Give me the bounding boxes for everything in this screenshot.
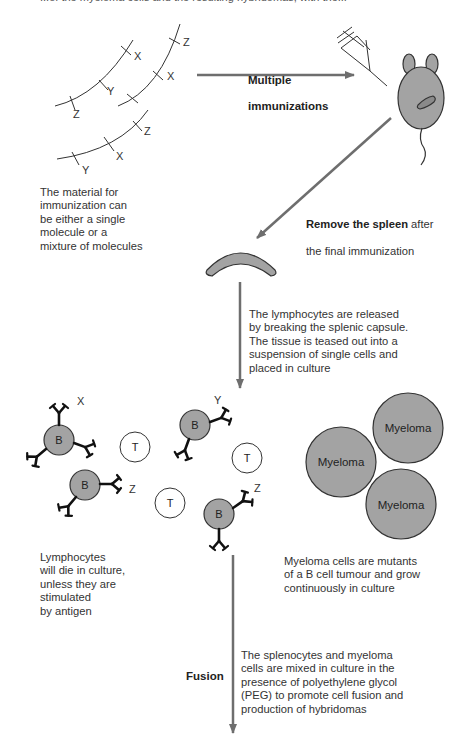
svg-text:Y: Y — [82, 164, 90, 176]
svg-text:B: B — [215, 508, 222, 520]
svg-text:X: X — [116, 150, 124, 162]
remove-spleen-bold: Remove the spleen — [306, 218, 408, 230]
antigen-molecule-3 — [57, 110, 148, 159]
svg-text:T: T — [132, 441, 139, 453]
svg-text:Z: Z — [254, 482, 261, 494]
lymphocyte-caption: Lymphocytes will die in culture, unless … — [40, 551, 125, 618]
fusion-label: Fusion — [186, 670, 224, 683]
svg-text:X: X — [134, 50, 142, 62]
antigen-molecules — [55, 24, 180, 165]
svg-text:T: T — [167, 497, 174, 509]
svg-text:Myeloma: Myeloma — [378, 499, 425, 511]
syringe-icon — [337, 27, 387, 86]
immunizations-label-line2: immunizations — [248, 100, 329, 113]
antigen-epitope-labels: X Y Z Z X Z X Y — [73, 36, 190, 176]
immunizations-label-line1: Multiple — [248, 74, 329, 87]
lymphocyte-release-caption: The lymphocytes are released by breaking… — [249, 308, 408, 375]
b-cell-2 — [56, 470, 121, 519]
remove-spleen-rest: after — [408, 218, 434, 230]
svg-text:Y: Y — [107, 85, 115, 97]
b-cell-antigen-labels: X Z Y Z — [77, 394, 261, 495]
remove-spleen-label: Remove the spleen after the final immuni… — [306, 205, 433, 272]
immunizations-arrow-label: Multiple immunizations — [248, 61, 329, 126]
svg-text:B: B — [55, 434, 62, 446]
b-cell-3 — [173, 406, 232, 461]
svg-text:Myeloma: Myeloma — [385, 422, 432, 434]
svg-text:Y: Y — [214, 394, 222, 406]
svg-text:X: X — [77, 395, 85, 407]
antigen-molecule-1 — [55, 40, 133, 106]
svg-text:Z: Z — [183, 36, 190, 48]
svg-text:Z: Z — [129, 483, 136, 495]
svg-text:T: T — [244, 452, 251, 464]
svg-text:Z: Z — [73, 108, 80, 120]
svg-text:B: B — [191, 419, 198, 431]
t-cells — [120, 432, 262, 518]
remove-spleen-line2: the final immunization — [306, 245, 433, 258]
svg-text:Z: Z — [144, 125, 151, 137]
myeloma-caption: Myeloma cells are mutants of a B cell tu… — [284, 555, 420, 595]
spleen-icon — [206, 253, 276, 276]
b-cell-4 — [204, 489, 255, 550]
fusion-caption: The splenocytes and myeloma cells are mi… — [241, 649, 403, 716]
svg-text:B: B — [81, 479, 88, 491]
svg-text:X: X — [167, 70, 175, 82]
immunization-material-caption: The material for immunization can be eit… — [40, 186, 143, 253]
svg-text:Myeloma: Myeloma — [318, 456, 365, 468]
mouse-icon — [398, 54, 444, 165]
